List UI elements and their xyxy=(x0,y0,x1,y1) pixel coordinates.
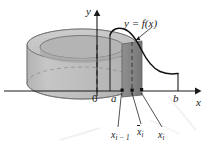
leader-line-x-bar-i xyxy=(132,93,141,124)
x-axis-arrowhead xyxy=(195,88,202,95)
tick-x-bar-i xyxy=(131,89,134,92)
scan-artifacts xyxy=(60,96,196,140)
tick-x-i xyxy=(140,88,143,91)
y-axis-arrowhead xyxy=(94,10,101,17)
tick-x-i-minus-1 xyxy=(121,89,124,92)
shell-method-figure: y x 0 a b y = f(x) xi − 1 xi xi xyxy=(0,0,207,152)
leader-line-x-i-minus-1 xyxy=(118,93,122,127)
leader-line-x-i xyxy=(142,93,163,127)
figure-canvas xyxy=(0,0,207,152)
